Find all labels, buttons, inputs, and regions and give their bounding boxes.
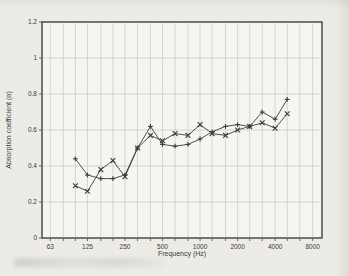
y-tick-label: 1 (33, 54, 37, 61)
y-tick-label: 0.8 (28, 90, 37, 97)
scan-smudge-artifact (14, 258, 164, 267)
x-tick-label: 8000 (305, 243, 320, 250)
x-tick-label: 63 (47, 243, 55, 250)
x-tick-label: 1000 (193, 243, 208, 250)
y-axis-title: Absorption coefficient (α) (5, 91, 13, 168)
x-tick-label: 2000 (230, 243, 245, 250)
y-tick-label: 0.6 (28, 126, 37, 133)
x-tick-label: 125 (82, 243, 93, 250)
plot-area: 00.20.40.60.811.263125250500100020004000… (28, 18, 322, 249)
x-tick-label: 4000 (268, 243, 283, 250)
x-tick-label: 500 (157, 243, 168, 250)
y-tick-label: 1.2 (28, 18, 37, 25)
absorption-coefficient-chart: 00.20.40.60.811.263125250500100020004000… (0, 0, 349, 276)
y-tick-label: 0 (33, 234, 37, 241)
y-tick-label: 0.2 (28, 198, 37, 205)
y-tick-label: 0.4 (28, 162, 37, 169)
x-tick-label: 250 (120, 243, 131, 250)
absorption-chart-figure: 00.20.40.60.811.263125250500100020004000… (0, 0, 349, 276)
x-axis-title: Frequency (Hz) (158, 250, 206, 258)
